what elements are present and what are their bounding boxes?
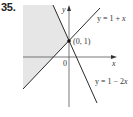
- intersection-point: [67, 39, 71, 43]
- inequality-graph: y x 0 (0, 1) y = 1 + x y = 1 − 2x: [0, 0, 133, 117]
- x-axis-label: x: [111, 59, 116, 68]
- origin-label: 0: [63, 59, 67, 68]
- shaded-region: [23, 5, 69, 89]
- line1-label: y = 1 + x: [97, 14, 126, 23]
- line2-label: y = 1 − 2x: [95, 77, 128, 86]
- y-axis-label: y: [61, 5, 66, 14]
- line-y-1-minus-2x: [53, 5, 97, 103]
- y-axis-arrow-icon: [67, 5, 71, 11]
- point-label: (0, 1): [73, 37, 91, 46]
